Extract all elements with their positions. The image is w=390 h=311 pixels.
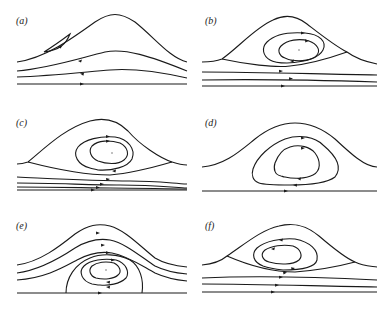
panel-f-streamlines — [195, 206, 390, 309]
inner-eddy-streamline — [90, 141, 127, 163]
eddy-center — [111, 152, 112, 153]
arrow-icon — [80, 83, 84, 86]
panel-e: (e) — [0, 206, 195, 309]
panel-c-streamlines — [0, 103, 195, 206]
arrow-icon — [271, 247, 275, 250]
separatrix-streamline — [17, 15, 187, 63]
arrow-icon — [106, 281, 110, 284]
separatrix-streamline — [202, 17, 377, 64]
arrow-icon — [106, 135, 110, 138]
panel-d-streamlines — [195, 103, 390, 206]
arrow-icon — [275, 284, 279, 287]
inner-eddy-streamline — [274, 146, 319, 178]
eddy-center — [298, 49, 299, 50]
arrow-icon — [293, 184, 297, 187]
panel-a-streamlines — [0, 0, 195, 103]
panel-c: (c) — [0, 103, 195, 206]
panel-d: (d) — [195, 103, 390, 206]
arrow-icon — [96, 232, 100, 235]
arrow-icon — [279, 276, 283, 279]
streamline — [202, 72, 377, 75]
dividing-streamline — [66, 255, 143, 293]
streamline — [202, 284, 377, 287]
panel-b-streamlines — [195, 0, 390, 103]
eddy-center — [105, 269, 106, 270]
panel-f: (f) — [195, 206, 390, 309]
outer-eddy-streamline — [76, 137, 133, 170]
panel-e-streamlines — [0, 206, 195, 309]
arrow-icon — [106, 140, 110, 143]
arrow-icon — [284, 190, 288, 193]
arrow-icon — [91, 189, 95, 192]
arrow-icon — [281, 85, 285, 88]
streamline — [17, 187, 187, 189]
outer-eddy-streamline — [263, 33, 324, 63]
arrow-icon — [98, 292, 102, 295]
dividing-streamline — [222, 52, 347, 67]
separatrix-streamline — [17, 119, 187, 165]
streamline-figure: (a) (b) — [0, 0, 390, 311]
arrow-icon — [111, 259, 115, 262]
streamline — [202, 277, 377, 280]
outer-streamline — [202, 123, 377, 167]
inner-eddy-streamline — [262, 245, 301, 264]
dividing-streamline — [28, 162, 172, 175]
inner-eddy-streamline — [90, 262, 120, 279]
outer-eddy-streamline — [252, 137, 338, 185]
arrow-icon — [101, 244, 105, 247]
arrow-icon — [96, 186, 100, 189]
streamline — [17, 69, 187, 78]
small-recirculation-bubble — [44, 34, 70, 52]
arrow-icon — [106, 251, 110, 254]
outer-eddy-streamline — [81, 259, 127, 285]
arrow-icon — [78, 60, 82, 63]
arrow-icon — [112, 170, 116, 173]
arrow-icon — [305, 39, 309, 42]
panel-a: (a) — [0, 0, 195, 103]
arrow-icon — [106, 286, 110, 289]
arrow-icon — [271, 291, 275, 294]
arrow-icon — [279, 70, 283, 73]
arrow-icon — [301, 31, 305, 34]
outer-eddy-streamline — [254, 239, 318, 270]
panel-b: (b) — [195, 0, 390, 103]
